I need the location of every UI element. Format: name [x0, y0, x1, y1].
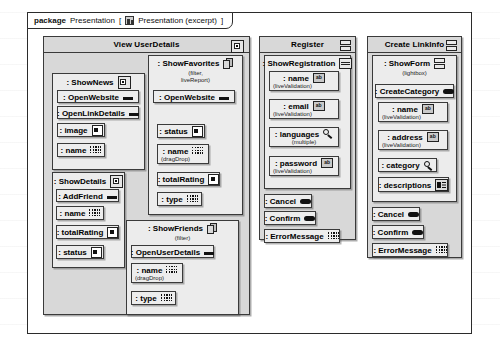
leaf-label: : name — [163, 147, 189, 156]
link-icon — [129, 110, 139, 117]
leaf-name[interactable]: : name (dragDrop) — [131, 263, 183, 283]
leaf-note: (liveValidation) — [270, 168, 338, 175]
ab-icon: ab — [313, 101, 325, 111]
node-header: : ShowFriends — [127, 221, 238, 235]
leaf-address[interactable]: : addressab (liveValidation) — [378, 130, 448, 150]
leaf-label: : image — [60, 126, 88, 135]
leaf-image[interactable]: : image — [57, 123, 105, 137]
leaf-note: (dragDrop) — [158, 156, 208, 163]
node-title: : ShowNews — [66, 78, 113, 87]
link-icon — [107, 193, 117, 200]
leaf-category[interactable]: : category — [378, 158, 437, 172]
button-icon — [300, 198, 311, 206]
node-title: : ShowForm — [384, 59, 430, 68]
node-stereotype-line2: liveReport) — [149, 77, 242, 86]
window-icon — [231, 40, 244, 53]
leaf-label: : totalRating — [57, 228, 104, 237]
button-icon — [443, 88, 454, 96]
leaf-confirm[interactable]: : Confirm — [264, 211, 316, 225]
leaf-label: : totalRating — [158, 175, 205, 184]
leaf-name[interactable]: : name (dragDrop) — [157, 144, 209, 164]
node-header: : ShowDetails — [53, 173, 124, 189]
ab-icon: ab — [321, 158, 333, 168]
leaf-descriptions[interactable]: : descriptions — [378, 177, 449, 192]
leaf-name[interactable]: : nameab (liveValidation) — [269, 71, 339, 91]
node-title: : ShowFavorites — [158, 59, 220, 68]
diagram-icon — [125, 16, 134, 25]
package-diagram-label: Presentation (excerpt) — [138, 16, 217, 25]
panes2-icon — [339, 58, 352, 69]
leaf-label: : name — [61, 146, 87, 155]
leaf-openlinkdetails[interactable]: : OpenLinkDetails — [57, 106, 139, 119]
divider — [260, 52, 355, 53]
leaf-openwebsite[interactable]: : OpenWebsite — [153, 90, 235, 103]
text-icon — [90, 146, 101, 155]
leaf-name[interactable]: : name — [56, 206, 104, 220]
leaf-label: : OpenLinkDetails — [57, 109, 125, 118]
leaf-type[interactable]: : type — [131, 291, 176, 305]
leaf-totalrating[interactable]: : totalRating — [56, 225, 119, 239]
column-title: View UserDetails — [44, 37, 249, 52]
divider — [44, 52, 249, 53]
package-keyword: package — [34, 16, 66, 25]
leaf-languages[interactable]: : languages (multiple) — [269, 127, 339, 147]
leaf-note: (dragDrop) — [132, 275, 182, 282]
leaf-type[interactable]: : type — [157, 192, 202, 206]
leaf-note: (liveValidation) — [379, 114, 447, 121]
text-icon — [89, 209, 100, 218]
leaf-label: : name — [283, 74, 309, 83]
leaf-label: : type — [161, 195, 182, 204]
stack-icon — [223, 58, 233, 69]
leaf-password[interactable]: : passwordab (liveValidation) — [269, 156, 339, 176]
leaf-email[interactable]: : emailab (liveValidation) — [269, 99, 339, 119]
leaf-openuserdetails[interactable]: : OpenUserDetails — [131, 245, 214, 258]
button-icon — [304, 215, 315, 223]
leaf-openwebsite[interactable]: : OpenWebsite — [57, 90, 139, 103]
leaf-label: : status — [159, 127, 187, 136]
leaf-name[interactable]: : nameab (liveValidation) — [378, 102, 448, 122]
link-icon — [219, 94, 229, 101]
leaf-note: (liveValidation) — [270, 111, 338, 118]
text-icon — [192, 147, 203, 156]
desc-icon — [435, 179, 448, 191]
leaf-totalrating[interactable]: : totalRating — [157, 172, 220, 186]
node-header: : ShowForm — [373, 56, 456, 70]
leaf-label: : Confirm — [265, 214, 301, 223]
leaf-cancel[interactable]: : Cancel — [264, 194, 312, 208]
package-tab: package Presentation [ Presentation (exc… — [27, 12, 233, 29]
leaf-label: : ErrorMessage — [373, 246, 431, 255]
leaf-label: : languages — [275, 130, 319, 139]
bracket-close: ] — [221, 16, 223, 25]
node-stereotype-line1: (filter) — [127, 235, 238, 244]
select-icon — [424, 161, 434, 171]
node-header: : ShowRegistration — [265, 56, 350, 70]
leaf-errormessage[interactable]: : ErrorMessage — [264, 229, 340, 243]
leaf-label: : status — [58, 248, 86, 257]
leaf-cancel[interactable]: : Cancel — [372, 207, 420, 221]
leaf-createcategory[interactable]: : CreateCategory — [375, 84, 454, 98]
image-icon — [107, 227, 118, 238]
package-name: Presentation — [70, 16, 115, 25]
leaf-errormessage[interactable]: : ErrorMessage — [372, 243, 448, 257]
text-icon — [328, 232, 339, 241]
leaf-label: : address — [387, 133, 423, 142]
node-title: : ShowFriends — [148, 224, 203, 233]
leaf-status[interactable]: : status — [56, 245, 104, 259]
image-icon — [192, 126, 203, 137]
window-icon — [118, 76, 131, 89]
leaf-label: : Cancel — [373, 210, 404, 219]
leaf-label: : email — [283, 102, 308, 111]
leaf-status[interactable]: : status — [157, 124, 205, 138]
text-icon — [161, 294, 172, 303]
node-title: : ShowDetails — [54, 177, 106, 186]
panes-icon — [434, 58, 445, 69]
leaf-name[interactable]: : name — [57, 143, 105, 157]
image-icon — [208, 174, 219, 185]
leaf-note: (multiple) — [270, 139, 338, 146]
leaf-label: : name — [392, 105, 418, 114]
leaf-addfriend[interactable]: : AddFriend — [56, 189, 119, 202]
ab-icon: ab — [313, 73, 325, 83]
text-icon — [187, 195, 198, 204]
leaf-confirm[interactable]: : Confirm — [372, 225, 424, 239]
diagram-canvas: package Presentation [ Presentation (exc… — [0, 0, 500, 348]
